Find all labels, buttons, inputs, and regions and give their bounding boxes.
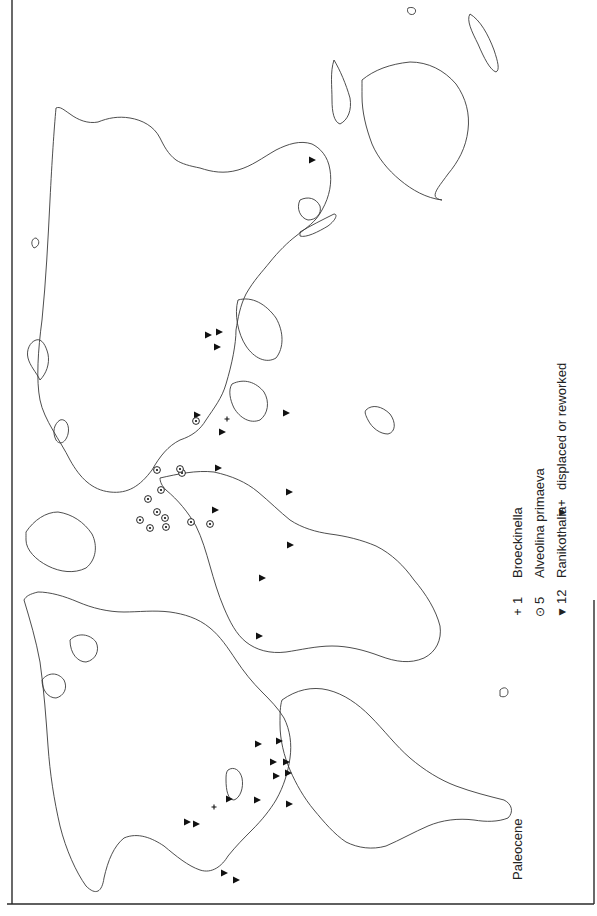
triangle-marker-icon — [216, 329, 223, 336]
triangle-marker-icon — [233, 877, 240, 884]
map-title: Paleocene — [510, 819, 526, 880]
legend-row-alveolina: ⊙ 5 Alveolina primaeva — [532, 468, 548, 620]
triangle-marker-icon — [285, 770, 292, 777]
triangle-marker-icon — [273, 773, 280, 780]
triangle-marker-icon — [219, 429, 226, 436]
greenland-coastline — [26, 512, 95, 572]
madagascar-coastline — [365, 407, 394, 434]
triangle-marker-icon — [256, 633, 263, 640]
cuba-coastline — [226, 768, 243, 800]
circled-dot-marker-icon — [147, 525, 154, 532]
circled-dot-marker-icon — [158, 487, 165, 494]
ranikothalia-markers — [184, 157, 316, 884]
australia-coastline — [362, 62, 469, 200]
legend-row-broeckinella: + 1 Broeckinella — [510, 507, 526, 620]
circled-dot-marker-icon — [145, 496, 152, 503]
triangle-marker-icon — [215, 465, 222, 472]
circled-dot-marker-icon — [193, 418, 200, 425]
legend-label: Alveolina primaeva — [532, 468, 548, 578]
island-fragment — [407, 7, 415, 14]
circled-dot-marker-icon — [154, 467, 161, 474]
triangle-marker-icon — [184, 819, 191, 826]
legend-label: displaced or reworked — [554, 363, 570, 490]
eurasia-coastline — [38, 107, 331, 492]
baffin-coastline — [70, 635, 98, 662]
circled-dot-marker-icon — [188, 519, 195, 526]
triangle-marker-icon — [205, 332, 212, 339]
legend-count: 5 — [532, 578, 548, 604]
kamchatka-coastline — [469, 14, 498, 72]
circled-dot-marker-icon — [163, 524, 170, 531]
british-isles-coastline — [54, 420, 69, 443]
displaced-marker-icon: ▼+ — [554, 498, 570, 520]
circled-dot-marker-icon — [137, 517, 144, 524]
plus-marker-icon — [225, 417, 230, 422]
circled-dot-marker-icon — [154, 509, 161, 516]
paleocene-distribution-map: + 1 Broeckinella ⊙ 5 Alveolina primaeva … — [0, 0, 597, 916]
africa-coastline — [160, 471, 440, 661]
arctic-archipelago-coastline — [42, 674, 66, 698]
legend-count: 1 — [510, 578, 526, 604]
triangle-marker-icon — [212, 507, 219, 514]
india-coastline — [236, 299, 282, 360]
triangle-marker-icon — [214, 344, 221, 351]
arabia-coastline — [230, 381, 268, 421]
triangle-marker-icon — [255, 741, 262, 748]
triangle-marker-icon — [226, 796, 233, 803]
triangle-marker-icon — [286, 801, 293, 808]
triangle-icon: ▼ — [554, 604, 570, 620]
plus-icon: + — [510, 604, 526, 620]
legend-row-displaced: ▼+ displaced or reworked — [554, 363, 570, 520]
circled-dot-marker-icon — [177, 466, 184, 473]
triangle-marker-icon — [221, 870, 228, 877]
circled-dot-icon: ⊙ — [532, 604, 548, 620]
triangle-marker-icon — [283, 410, 290, 417]
legend-count: 12 — [554, 578, 570, 604]
triangle-marker-icon — [270, 759, 277, 766]
plus-marker-icon — [212, 805, 217, 810]
circled-dot-marker-icon — [162, 515, 169, 522]
circled-dot-marker-icon — [207, 521, 214, 528]
legend-row-ranikothalia: ▼ 12 Ranikothalia — [554, 506, 570, 620]
triangle-marker-icon — [286, 489, 293, 496]
world-map-svg — [0, 0, 597, 916]
borneo-coastline — [298, 198, 320, 220]
sumatra-coastline — [300, 214, 336, 236]
north-america-coastline — [24, 592, 291, 892]
south-america-coastline — [280, 688, 511, 848]
triangle-marker-icon — [309, 157, 316, 164]
falklands-coastline — [500, 688, 508, 697]
triangle-marker-icon — [287, 542, 294, 549]
arctic-island-coastline — [32, 238, 39, 248]
triangle-marker-icon — [193, 821, 200, 828]
legend-label: Broeckinella — [510, 507, 526, 578]
triangle-marker-icon — [259, 575, 266, 582]
triangle-marker-icon — [254, 797, 261, 804]
japan-coastline — [332, 60, 351, 124]
